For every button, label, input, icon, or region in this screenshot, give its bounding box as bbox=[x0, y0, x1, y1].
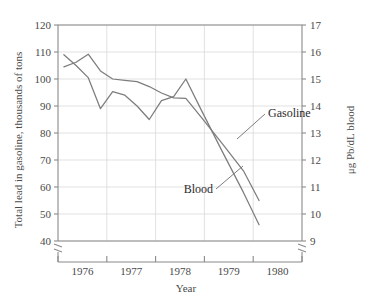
gasoline-line bbox=[64, 55, 259, 225]
left-tick-label: 40 bbox=[40, 235, 52, 247]
right-tick-label: 11 bbox=[310, 181, 321, 193]
right-tick-label: 10 bbox=[310, 208, 322, 220]
tick-labels-group: 4050607080901001101209101112131415161719… bbox=[35, 19, 322, 277]
left-tick-label: 120 bbox=[35, 19, 52, 31]
left-tick-label: 90 bbox=[40, 100, 52, 112]
left-tick-label: 70 bbox=[40, 154, 52, 166]
x-tick-label: 1980 bbox=[267, 265, 290, 277]
chart-canvas: 4050607080901001101209101112131415161719… bbox=[0, 0, 371, 301]
right-tick-label: 9 bbox=[310, 235, 316, 247]
left-axis-break-icon bbox=[54, 244, 62, 252]
series-lines-group bbox=[64, 54, 259, 225]
y-right-axis-title: μg Pb/dL blood bbox=[344, 105, 356, 174]
gasoline-annotation-group: Gasoline bbox=[237, 106, 311, 139]
right-tick-label: 15 bbox=[310, 73, 322, 85]
x-tick-label: 1979 bbox=[218, 265, 241, 277]
left-tick-label: 100 bbox=[35, 73, 52, 85]
x-tick-label: 1976 bbox=[71, 265, 94, 277]
x-tick-label: 1977 bbox=[120, 265, 143, 277]
blood-series-label: Blood bbox=[184, 182, 213, 196]
x-tick-label: 1978 bbox=[169, 265, 192, 277]
blood-leader-line bbox=[216, 166, 243, 189]
y-left-axis-title: Total lead in gasoline, thousands of ton… bbox=[12, 52, 24, 229]
right-tick-label: 16 bbox=[310, 46, 322, 58]
x-axis-title: Year bbox=[176, 282, 197, 294]
left-tick-label: 80 bbox=[40, 127, 52, 139]
right-axis-break-icon bbox=[298, 244, 306, 252]
gasoline-leader-line bbox=[237, 114, 265, 139]
tick-marks-group bbox=[54, 25, 306, 262]
right-tick-label: 14 bbox=[310, 100, 322, 112]
gasoline-series-label: Gasoline bbox=[268, 106, 311, 120]
right-tick-label: 12 bbox=[310, 154, 321, 166]
blood-annotation-group: Blood bbox=[184, 166, 243, 196]
lead-chart-figure: 4050607080901001101209101112131415161719… bbox=[0, 0, 371, 301]
left-tick-label: 110 bbox=[35, 46, 52, 58]
gridlines-group bbox=[58, 25, 302, 241]
left-tick-label: 60 bbox=[40, 181, 52, 193]
right-tick-label: 13 bbox=[310, 127, 322, 139]
left-tick-label: 50 bbox=[40, 208, 52, 220]
blood-line bbox=[64, 54, 259, 200]
axis-frame-group bbox=[54, 25, 306, 262]
right-tick-label: 17 bbox=[310, 19, 322, 31]
